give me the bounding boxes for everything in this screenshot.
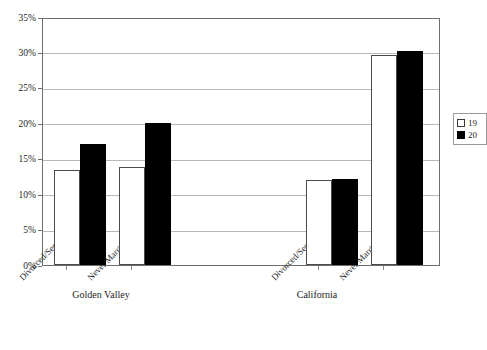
y-tick-label-15: 15%: [0, 154, 36, 164]
y-tick-label-20: 20%: [0, 119, 36, 129]
y-tick-label-30: 30%: [0, 48, 36, 58]
group-label-golden-valley: Golden Valley: [56, 290, 146, 300]
y-tick-label-25: 25%: [0, 83, 36, 93]
bar-ca-divorced-series-b: [332, 179, 358, 265]
x-tick-mark-2: [318, 266, 319, 270]
bar-ca-divorced-series-a: [306, 180, 332, 265]
group-label-california: California: [272, 290, 362, 300]
y-tick-label-5: 5%: [0, 225, 36, 235]
bar-gv-nevermarried-series-b: [145, 123, 171, 265]
bar-gv-nevermarried-series-a: [119, 167, 145, 265]
bar-ca-nevermarried-series-a: [371, 55, 397, 265]
legend-label-series-a: 19: [468, 119, 477, 128]
plot-area: [42, 18, 440, 266]
legend-label-series-b: 20: [468, 131, 477, 140]
y-tick-label-10: 10%: [0, 190, 36, 200]
bar-gv-divorced-series-a: [54, 170, 80, 265]
bar-gv-divorced-series-b: [80, 144, 106, 265]
gridline-30: [43, 53, 439, 54]
legend-swatch-white-square-icon: [457, 119, 465, 127]
legend-swatch-black-square-icon: [457, 131, 465, 139]
y-tick-label-35: 35%: [0, 13, 36, 23]
x-tick-mark-1: [131, 266, 132, 270]
x-tick-mark-3: [383, 266, 384, 270]
legend-item-series-a: 19: [457, 117, 484, 129]
bar-ca-nevermarried-series-b: [397, 51, 423, 265]
legend: 19 20: [453, 113, 487, 145]
legend-item-series-b: 20: [457, 129, 484, 141]
x-tick-mark-0: [66, 266, 67, 270]
